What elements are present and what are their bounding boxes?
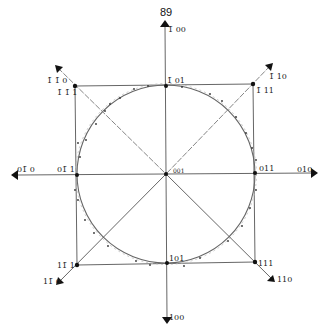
label-center: 001 [173,167,184,174]
figure-number: 89 [160,6,172,18]
label-top-mid: 1̄ 01 [167,76,185,85]
label-corner-bl-pt: 11̄ 1 [57,261,75,270]
label-corner-br-dir: 110 [277,275,292,284]
diagonal-tl [58,68,166,174]
label-right-axis: 010 [297,165,312,174]
label-bottom-axis: 100 [169,313,184,322]
label-top-axis: 1̄ 00 [168,25,186,34]
label-corner-tr-pt: 1̄ 11 [256,86,274,95]
label-left-mid: 01̄ 1 [57,165,75,174]
label-corner-bl-dir: 11̄ 0 [43,277,61,286]
label-corner-tl-pt: 1̄ 1̄ 1 [57,88,77,97]
label-right-mid: 011 [259,164,274,173]
label-bottom-mid: 101 [169,254,184,263]
label-left-axis: 01̄ 0 [17,165,35,174]
arrow-br-icon [267,275,275,282]
label-corner-tl-dir: 1̄ 1̄ 0 [47,76,67,85]
stereographic-projection-diagram: 89 1̄ 0 [0,0,325,334]
label-corner-br-pt: 111 [258,259,273,268]
label-corner-tr-dir: 1̄ 10 [269,72,287,81]
